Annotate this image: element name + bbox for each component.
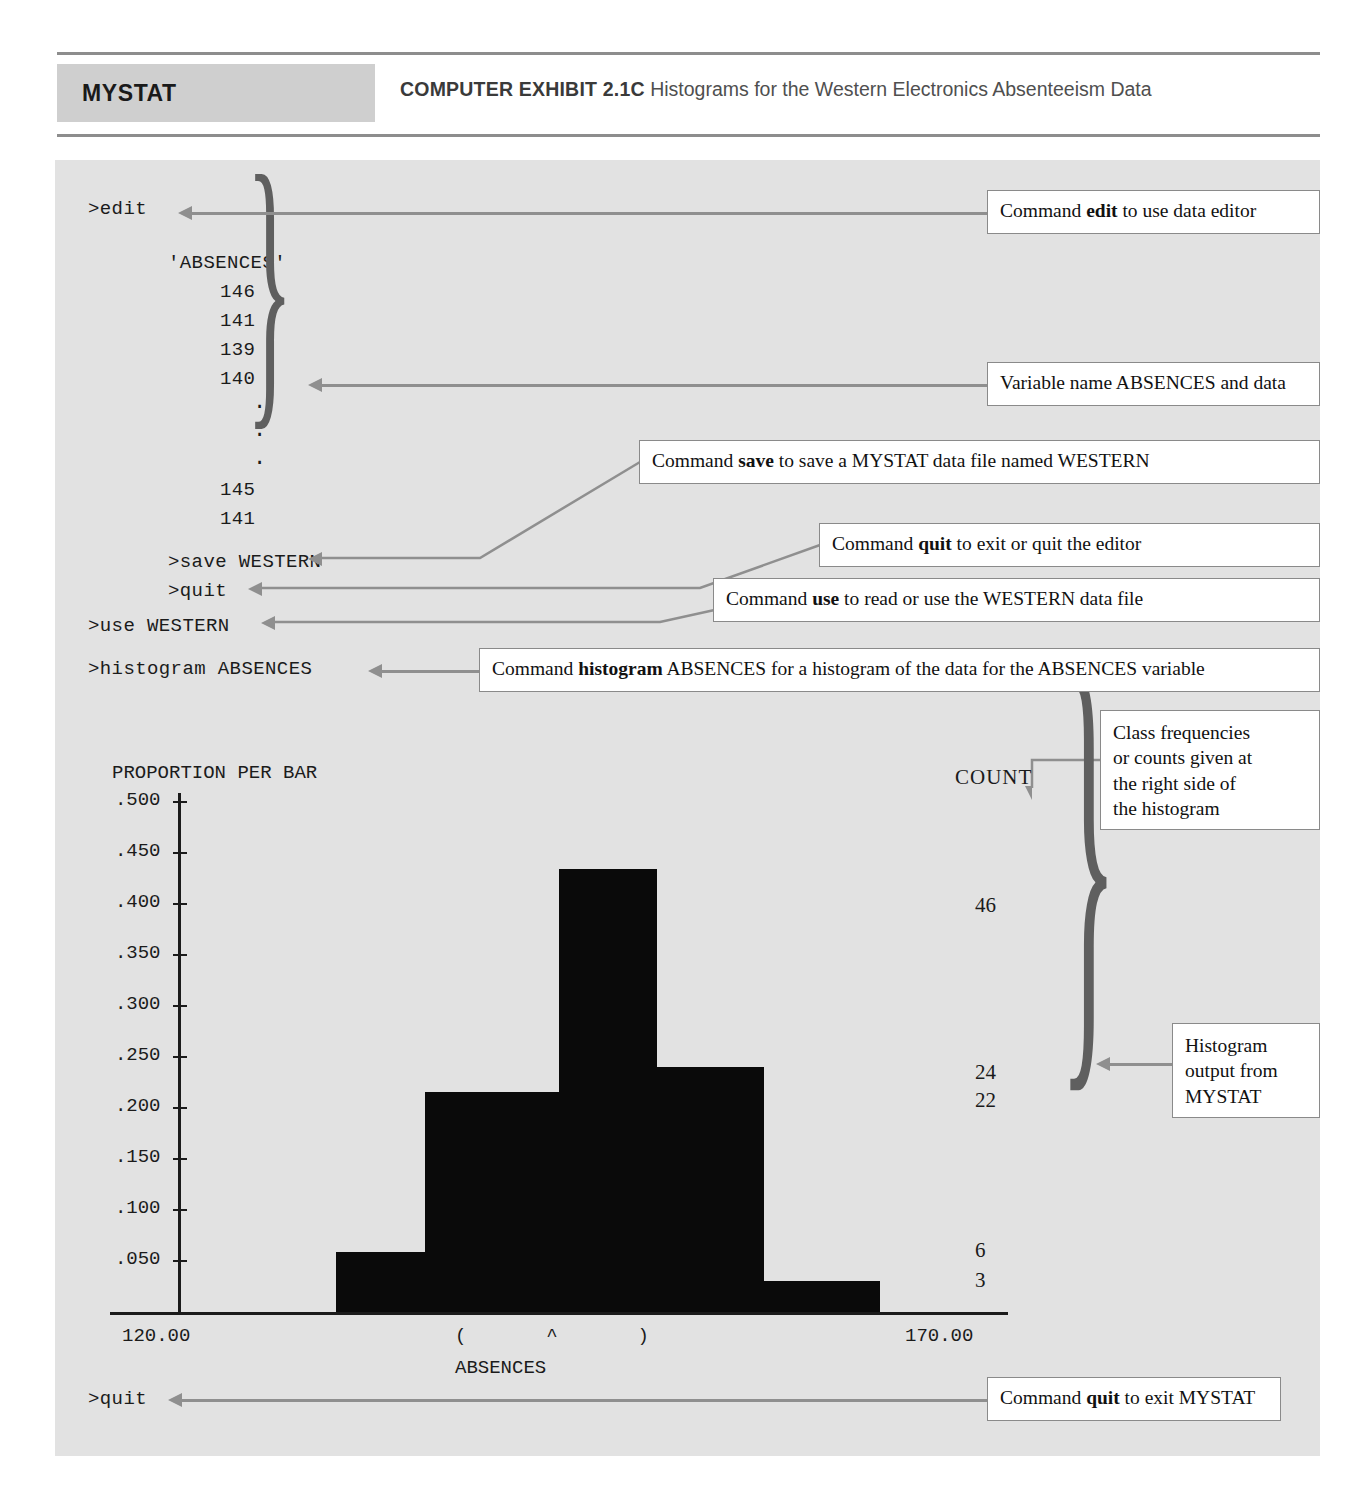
callout-histogram-output-line-1: output from xyxy=(1185,1058,1307,1083)
histogram-count-label: 3 xyxy=(975,1268,986,1293)
callout-quit-mystat: Command quit to exit MYSTAT xyxy=(987,1377,1281,1421)
histogram-count-label: 22 xyxy=(975,1088,996,1113)
callout-variable: Variable name ABSENCES and data xyxy=(987,362,1320,406)
histogram-bar xyxy=(657,1067,764,1312)
callout-quit-editor: Command quit to exit or quit the editor xyxy=(819,523,1320,567)
y-axis-tick-label: .500 xyxy=(83,789,161,811)
callout-use-suffix: to read or use the WESTERN data file xyxy=(839,588,1143,609)
callout-use: Command use to read or use the WESTERN d… xyxy=(713,578,1320,622)
callout-quit-mystat-prefix: Command xyxy=(1000,1387,1086,1408)
callout-use-bold: use xyxy=(812,588,839,609)
x-axis-title: ABSENCES xyxy=(455,1357,715,1379)
callout-save-prefix: Command xyxy=(652,450,738,471)
y-axis-tick-label: .450 xyxy=(83,840,161,862)
y-axis-tick-label: .050 xyxy=(83,1248,161,1270)
callout-histogram-suffix: ABSENCES for a histogram of the data for… xyxy=(663,658,1205,679)
histogram-bar xyxy=(425,1092,559,1312)
histogram-bar xyxy=(336,1252,425,1312)
callout-edit-suffix: to use data editor xyxy=(1118,200,1257,221)
callout-class-frequencies: Class frequencies or counts given at the… xyxy=(1100,710,1320,830)
histogram-bar xyxy=(764,1281,880,1312)
y-axis-tick xyxy=(173,852,187,854)
callout-quit-editor-prefix: Command xyxy=(832,533,918,554)
callout-histogram-bold: histogram xyxy=(578,658,663,679)
y-axis-tick xyxy=(173,1158,187,1160)
exhibit-page: MYSTAT COMPUTER EXHIBIT 2.1C Histograms … xyxy=(0,0,1372,1494)
y-axis-tick-label: .350 xyxy=(83,942,161,964)
callout-save-suffix: to save a MYSTAT data file named WESTERN xyxy=(774,450,1150,471)
y-axis-tick xyxy=(173,1209,187,1211)
callout-histogram-prefix: Command xyxy=(492,658,578,679)
callout-variable-text: Variable name ABSENCES and data xyxy=(1000,372,1286,393)
callout-histogram: Command histogram ABSENCES for a histogr… xyxy=(479,648,1320,692)
y-axis-tick xyxy=(173,954,187,956)
x-axis-line xyxy=(110,1312,1008,1315)
y-axis-title: PROPORTION PER BAR xyxy=(112,762,412,784)
connector-histogram-output xyxy=(1110,1063,1172,1066)
y-axis-tick-label: .200 xyxy=(83,1095,161,1117)
histogram-count-label: 24 xyxy=(975,1060,996,1085)
callout-quit-editor-suffix: to exit or quit the editor xyxy=(952,533,1142,554)
callout-class-frequencies-line-1: or counts given at xyxy=(1113,745,1307,770)
y-axis-tick-label: .300 xyxy=(83,993,161,1015)
callout-class-frequencies-line-0: Class frequencies xyxy=(1113,720,1307,745)
callout-edit: Command edit to use data editor xyxy=(987,190,1320,234)
callout-save-bold: save xyxy=(738,450,774,471)
callout-save: Command save to save a MYSTAT data file … xyxy=(639,440,1320,484)
x-tick-label-min: 120.00 xyxy=(122,1325,242,1347)
y-axis-tick xyxy=(173,1056,187,1058)
callout-class-frequencies-line-3: the histogram xyxy=(1113,796,1307,821)
histogram-count-label: 46 xyxy=(975,893,996,918)
histogram-count-label: 6 xyxy=(975,1238,986,1263)
y-axis-line xyxy=(178,793,181,1312)
callout-histogram-output-line-0: Histogram xyxy=(1185,1033,1307,1058)
callout-edit-prefix: Command xyxy=(1000,200,1086,221)
y-axis-tick-label: .400 xyxy=(83,891,161,913)
callout-histogram-output: Histogram output from MYSTAT xyxy=(1172,1023,1320,1118)
callout-quit-editor-bold: quit xyxy=(918,533,952,554)
y-axis-tick xyxy=(173,1005,187,1007)
x-tick-label-max: 170.00 xyxy=(905,1325,1025,1347)
y-axis-tick-label: .100 xyxy=(83,1197,161,1219)
y-axis-tick-label: .250 xyxy=(83,1044,161,1066)
callout-quit-mystat-bold: quit xyxy=(1086,1387,1120,1408)
callout-class-frequencies-line-2: the right side of xyxy=(1113,771,1307,796)
callout-use-prefix: Command xyxy=(726,588,812,609)
y-axis-tick-label: .150 xyxy=(83,1146,161,1168)
callout-edit-bold: edit xyxy=(1086,200,1117,221)
histogram-bar xyxy=(559,869,657,1312)
callout-histogram-output-line-2: MYSTAT xyxy=(1185,1084,1307,1109)
arrowhead-quit-mystat xyxy=(168,1393,182,1407)
y-axis-tick xyxy=(173,1107,187,1109)
callout-quit-mystat-suffix: to exit MYSTAT xyxy=(1120,1387,1255,1408)
y-axis-tick xyxy=(173,801,187,803)
connector-quit-mystat xyxy=(182,1399,987,1402)
y-axis-tick xyxy=(173,903,187,905)
count-column-header: COUNT xyxy=(955,765,1032,790)
x-range-markers: ( ^ ) xyxy=(455,1325,715,1347)
y-axis-tick xyxy=(173,1260,187,1262)
